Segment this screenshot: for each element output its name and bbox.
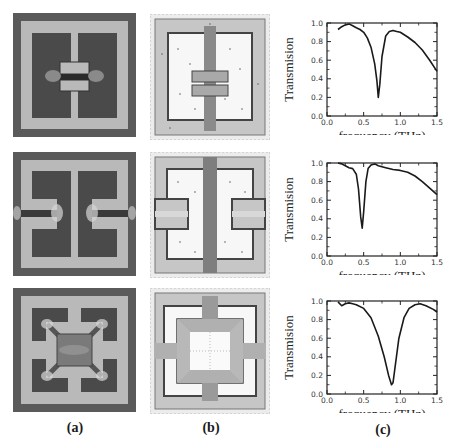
resonator-h-gap-field-image	[13, 13, 136, 137]
resonator-square-ring-field-image	[13, 288, 136, 412]
x-tick-label: 0.5	[358, 118, 370, 127]
x-tick-label: 0.0	[321, 258, 333, 267]
y-tick-label: 0.8	[311, 315, 323, 324]
x-tick-label: 0.0	[321, 118, 333, 127]
y-tick-label: 0.2	[311, 371, 323, 380]
y-tick-label: 1.0	[311, 19, 323, 28]
current-distribution-h-gap-image	[150, 14, 270, 140]
plot-frame	[327, 23, 437, 116]
transmission-curve	[338, 24, 437, 98]
panel-b-row1	[150, 14, 270, 140]
transmission-curve	[338, 163, 437, 228]
y-axis-title: Transmision	[281, 315, 296, 380]
current-distribution-side-gap-image	[150, 152, 270, 278]
panel-a-row3	[13, 288, 136, 412]
y-tick-label: 1.0	[311, 297, 323, 306]
transmission-chart-3: Transmision0.00.20.40.60.81.00.00.51.01.…	[270, 283, 451, 413]
transmission-curve	[338, 302, 437, 385]
column-label-b: (b)	[191, 420, 231, 436]
x-tick-label: 1.5	[431, 258, 443, 267]
y-axis-title: Transmision	[281, 37, 296, 102]
x-tick-label: 0.5	[358, 258, 370, 267]
x-tick-label: 1.5	[431, 396, 443, 405]
x-tick-label: 1.0	[394, 258, 406, 267]
chart-row1: Transmision0.00.20.40.60.81.00.00.51.01.…	[270, 5, 451, 135]
x-tick-label: 1.5	[431, 118, 443, 127]
y-tick-label: 0.4	[311, 352, 323, 361]
x-tick-label: 1.0	[394, 118, 406, 127]
plot-frame	[327, 163, 437, 256]
column-label-c: (c)	[363, 422, 403, 438]
y-tick-label: 0.4	[311, 74, 323, 83]
y-tick-label: 0.2	[311, 233, 323, 242]
transmission-chart-1: Transmision0.00.20.40.60.81.00.00.51.01.…	[270, 5, 451, 135]
panel-a-row2	[13, 152, 136, 276]
x-tick-label: 0.5	[358, 396, 370, 405]
resonator-side-gap-field-image	[13, 152, 136, 276]
x-tick-label: 1.0	[394, 396, 406, 405]
y-tick-label: 0.6	[311, 334, 323, 343]
y-tick-label: 1.0	[311, 159, 323, 168]
transmission-chart-2: Transmision0.00.20.40.60.81.00.00.51.01.…	[270, 145, 451, 275]
current-distribution-square-ring-image	[150, 288, 270, 414]
chart-row2: Transmision0.00.20.40.60.81.00.00.51.01.…	[270, 145, 451, 275]
y-tick-label: 0.6	[311, 56, 323, 65]
column-label-a: (a)	[55, 420, 95, 436]
x-axis-title: frequency (THz)	[339, 406, 426, 413]
chart-row3: Transmision0.00.20.40.60.81.00.00.51.01.…	[270, 283, 451, 413]
y-tick-label: 0.8	[311, 37, 323, 46]
x-axis-title: frequency (THz)	[339, 268, 426, 275]
y-tick-label: 0.4	[311, 214, 323, 223]
y-axis-title: Transmision	[281, 177, 296, 242]
panel-b-row2	[150, 152, 270, 278]
y-tick-label: 0.6	[311, 196, 323, 205]
panel-b-row3	[150, 288, 270, 414]
panel-a-row1	[13, 13, 136, 137]
y-tick-label: 0.8	[311, 177, 323, 186]
y-tick-label: 0.2	[311, 93, 323, 102]
x-tick-label: 0.0	[321, 396, 333, 405]
x-axis-title: frequency (THz)	[339, 128, 426, 135]
